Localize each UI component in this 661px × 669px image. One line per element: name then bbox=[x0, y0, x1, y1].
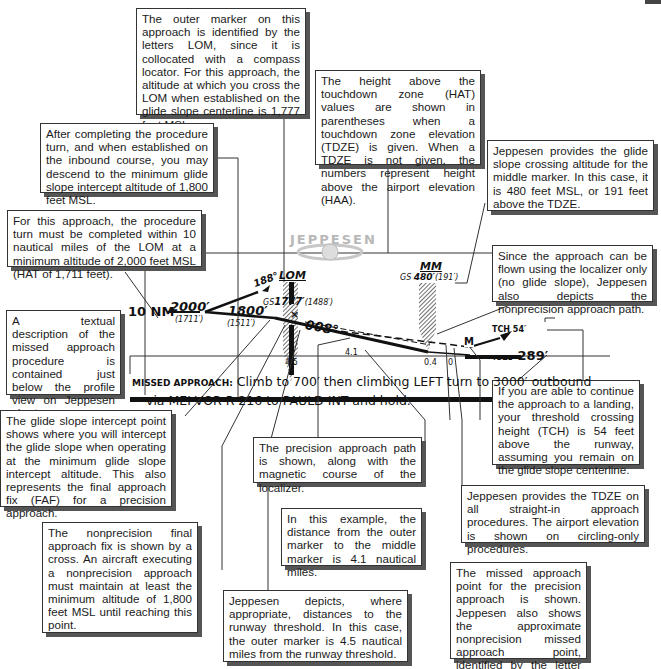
pt-altitude-label: 2000′ bbox=[170, 299, 210, 314]
callout-missed-text: A textual description of the missed appr… bbox=[6, 310, 121, 395]
nonprecision-map-letter: M bbox=[464, 336, 474, 347]
missed-line-1: MISSED APPROACH: Climb to 700′ then clim… bbox=[132, 373, 591, 392]
callout-threshold-distances: Jeppesen depicts, where appropriate, dis… bbox=[223, 590, 408, 662]
lom-gs-prefix: GS bbox=[263, 298, 274, 307]
dist-threshold-label: 0 bbox=[448, 358, 453, 367]
lom-gs-altitude: 1777′ bbox=[274, 296, 304, 307]
callout-nonprecision-faf: The nonprecision final approach fix is s… bbox=[42, 522, 198, 633]
gsi-hat-label: (1511′) bbox=[227, 319, 255, 328]
callout-precision-path: The precision approach path is shown, al… bbox=[253, 437, 422, 483]
mm-gs-hat: (191′) bbox=[435, 273, 458, 282]
missed-line1-text: Climb to 700′ then climbing LEFT turn to… bbox=[237, 374, 592, 389]
tdze-prefix: TDZE bbox=[492, 354, 512, 362]
callout-middle-marker: Jeppesen provides the glide slope crossi… bbox=[487, 140, 654, 211]
mm-gs-prefix: GS bbox=[400, 273, 411, 282]
callout-gs-intercept: The glide slope intercept point shows wh… bbox=[0, 410, 172, 507]
tdze-value: 289′ bbox=[518, 348, 549, 363]
callout-outer-marker: The outer marker on this approach is ide… bbox=[136, 8, 306, 115]
dist-om-label: 4.5 bbox=[285, 358, 298, 367]
callout-om-to-mm: In this example, the distance from the o… bbox=[281, 508, 422, 566]
dist-om-mm-label: 4.1 bbox=[345, 348, 358, 357]
tdze-label: TDZE 289′ bbox=[492, 345, 548, 364]
callout-nonprecision-path: Since the approach can be flown using th… bbox=[492, 245, 653, 302]
jeppesen-logo: JEPPESEN bbox=[290, 232, 377, 247]
callout-tdze: Jeppesen provides the TDZE on all straig… bbox=[461, 485, 645, 543]
callout-hat: The height above the touchdown zone (HAT… bbox=[315, 70, 481, 165]
svg-text:×: × bbox=[290, 308, 299, 321]
dist-mm-label: 0.4 bbox=[424, 358, 437, 367]
pt-distance-label: 10 NM bbox=[128, 304, 174, 319]
lom-gs-label: GS1777′(1488′) bbox=[263, 296, 333, 307]
gsi-altitude-label: 1800′ bbox=[228, 303, 268, 318]
callout-map: The missed approach point for the precis… bbox=[450, 562, 587, 659]
lom-gs-hat: (1488′) bbox=[305, 298, 333, 307]
missed-approach-text: MISSED APPROACH: Climb to 700′ then clim… bbox=[132, 373, 591, 409]
missed-prefix: MISSED APPROACH: bbox=[132, 378, 233, 388]
mm-gs-label: GS 480′(191′) bbox=[400, 272, 458, 282]
lom-label: LOM bbox=[279, 269, 306, 282]
mm-gs-altitude: 480′ bbox=[414, 272, 435, 282]
pt-hat-label: (1711′) bbox=[175, 315, 203, 324]
callout-procedure-turn-descend: After completing the procedure turn, and… bbox=[40, 123, 214, 193]
missed-line-2: via MEI VOR R-216 to PAULD INT and hold. bbox=[132, 392, 591, 409]
tch-label: TCH 54′ bbox=[492, 325, 526, 334]
callout-procedure-turn-limit: For this approach, the procedure turn mu… bbox=[7, 210, 202, 267]
